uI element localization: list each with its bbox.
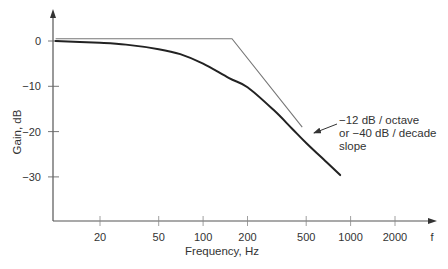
x-axis-title: Frequency, Hz <box>185 245 259 257</box>
y-tick-label: 0 <box>35 35 41 47</box>
bode-magnitude-chart: 0−10−20−30 205010020050010002000 Frequen… <box>0 0 448 269</box>
slope-annotation: −12 dB / octave or −40 dB / decade slope <box>314 114 437 152</box>
y-tick-label: −20 <box>22 126 41 138</box>
x-tick-label: 100 <box>194 231 212 243</box>
x-axis-end-label: f <box>430 231 434 243</box>
x-tick-label: 20 <box>94 231 106 243</box>
x-tick-label: 500 <box>297 231 315 243</box>
x-tick-label: 1000 <box>338 231 362 243</box>
annotation-line-3: slope <box>339 140 367 152</box>
x-axis-arrow-icon <box>428 218 437 224</box>
y-tick-label: −30 <box>22 171 41 183</box>
series-layer <box>56 39 341 175</box>
response-curve <box>56 41 341 175</box>
x-tick-label: 2000 <box>383 231 407 243</box>
y-tick-label: −10 <box>22 80 41 92</box>
annotation-arrow <box>314 124 337 133</box>
x-ticks: 205010020050010002000 <box>94 216 407 243</box>
y-axis-arrow-icon <box>50 9 56 18</box>
x-tick-label: 50 <box>153 231 165 243</box>
annotation-line-2: or −40 dB / decade <box>339 127 437 139</box>
x-tick-label: 200 <box>238 231 256 243</box>
y-axis-title: Gain, dB <box>11 109 23 154</box>
asymptote-line <box>56 39 303 127</box>
annotation-line-1: −12 dB / octave <box>339 114 419 126</box>
